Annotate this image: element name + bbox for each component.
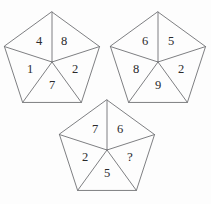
cell-value-label-right: 2: [178, 62, 184, 76]
cell-value-label-top-left: 7: [92, 122, 98, 136]
cell-value-label-left: 2: [82, 150, 88, 164]
cell-value-label-left: 8: [133, 62, 139, 76]
cell-value-label-bottom: 9: [155, 78, 161, 92]
puzzle-canvas: 482716529876?52: [0, 0, 211, 204]
cell-value-label-top-left: 6: [142, 34, 148, 48]
unknown-value-label-right: ?: [127, 149, 133, 164]
cell-value-label-right: 2: [72, 62, 78, 76]
cell-value-label-top-right: 5: [168, 34, 174, 48]
cell-value-label-left: 1: [27, 62, 33, 76]
left-pentagon: 48271: [4, 12, 99, 102]
cell-value-label-top-right: 8: [61, 34, 67, 48]
cell-value-label-bottom: 7: [49, 78, 55, 92]
pentagon-figure: 482716529876?52: [0, 0, 211, 204]
cell-value-label-top-left: 4: [36, 34, 43, 48]
cell-value-label-bottom: 5: [104, 166, 110, 180]
cell-value-label-top-right: 6: [117, 122, 123, 136]
right-pentagon: 65298: [110, 12, 205, 102]
bottom-pentagon: 76?52: [59, 100, 154, 190]
